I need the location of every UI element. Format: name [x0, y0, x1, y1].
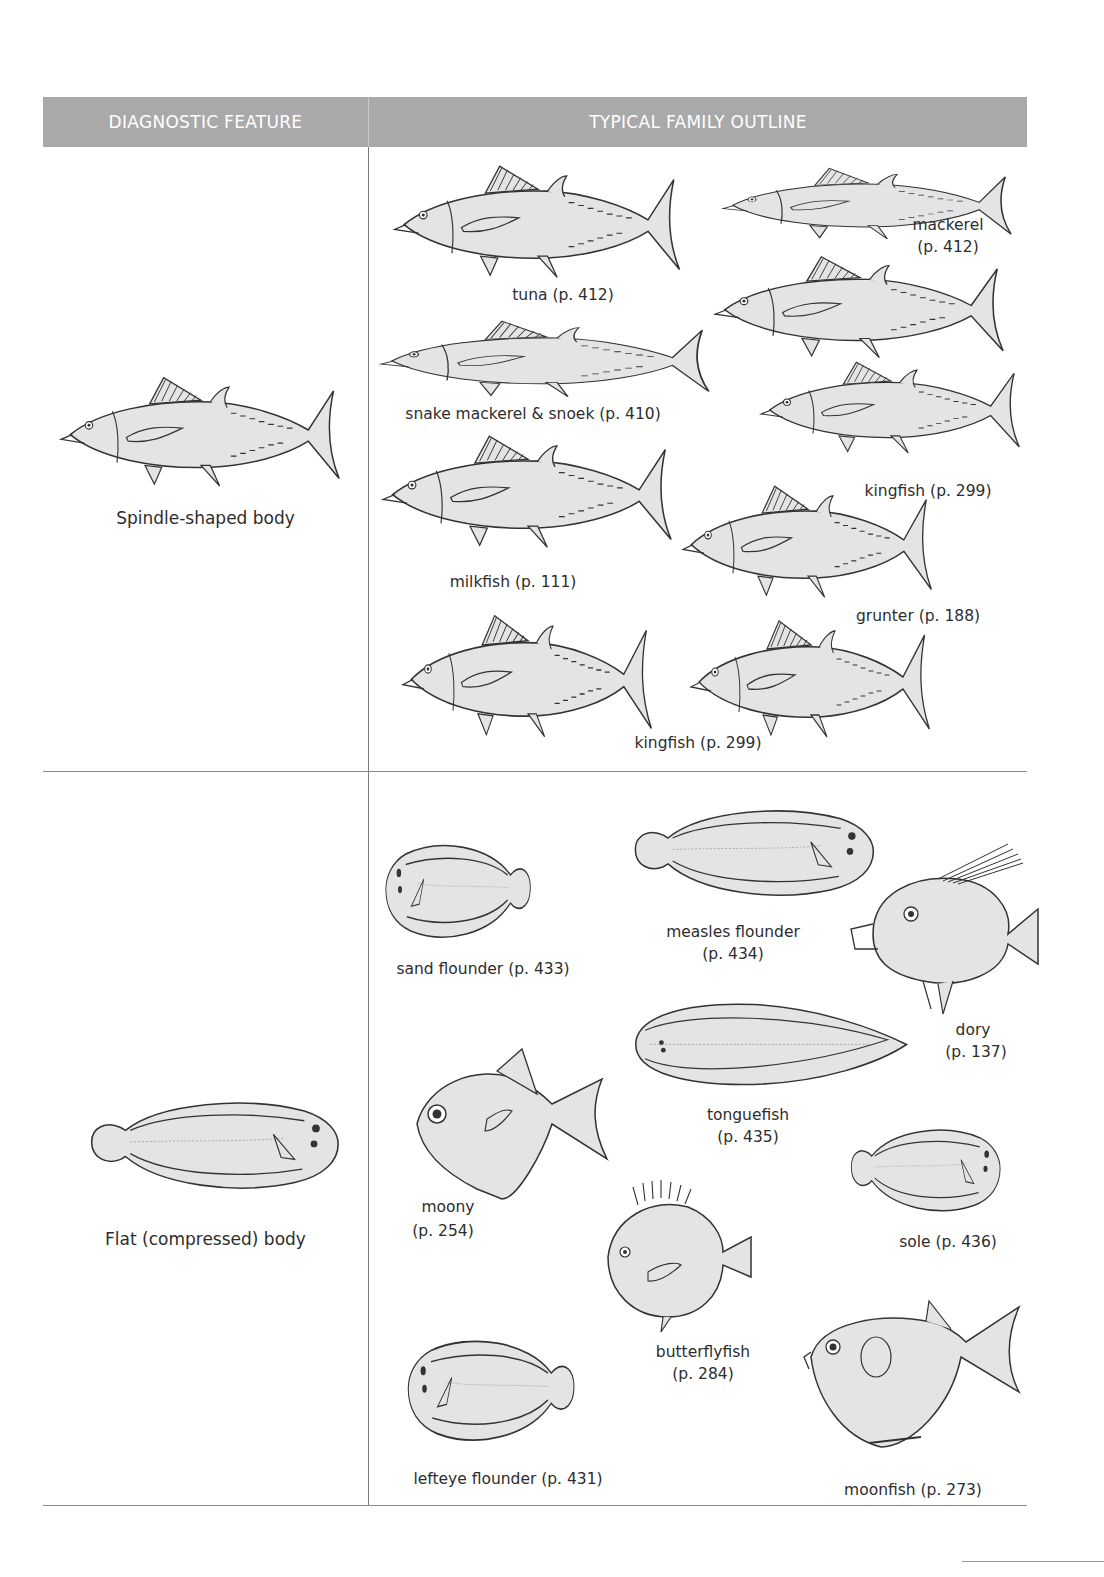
kingfish-illustration	[761, 367, 1021, 457]
family-label-measles-flounder: measles flounder	[643, 922, 823, 943]
moonfish-illustration	[801, 1297, 1026, 1457]
family-label-sole: sole (p. 436)	[883, 1232, 1013, 1253]
kingfish-illustration-2a	[403, 622, 653, 742]
butterflyfish-illustration	[603, 1177, 753, 1332]
sole-illustration	[828, 1112, 1003, 1222]
family-page-butterflyfish: (p. 284)	[643, 1364, 763, 1385]
family-label-kingfish-2: kingfish (p. 299)	[613, 733, 783, 754]
family-page-mackerel: (p. 412)	[893, 237, 1003, 258]
family-label-mackerel: mackerel	[893, 215, 1003, 236]
family-page-moony: (p. 254)	[398, 1221, 488, 1242]
family-page-tonguefish: (p. 435)	[673, 1127, 823, 1148]
family-label-dory: dory	[943, 1020, 1003, 1041]
family-label-tuna: tuna (p. 412)	[473, 285, 653, 306]
table-bottom-rule	[43, 1505, 1027, 1506]
milkfish-illustration	[383, 442, 673, 552]
header-typical-family-outline: TYPICAL FAMILY OUTLINE	[368, 97, 1027, 147]
flat-body-example-illustration	[53, 1082, 343, 1202]
feature-label-flat: Flat (compressed) body	[43, 1229, 368, 1250]
sand-flounder-illustration	[383, 825, 553, 950]
family-label-butterflyfish: butterflyfish	[643, 1342, 763, 1363]
header-diagnostic-feature: DIAGNOSTIC FEATURE	[43, 97, 368, 147]
family-label-tonguefish: tonguefish	[673, 1105, 823, 1126]
column-divider	[368, 147, 369, 1505]
family-label-grunter: grunter (p. 188)	[833, 606, 1003, 627]
measles-flounder-illustration	[598, 792, 878, 907]
moony-illustration	[407, 1049, 612, 1209]
lefteye-flounder-illustration	[405, 1319, 600, 1454]
kingfish-illustration-2b	[691, 627, 931, 742]
snake-mackerel-illustration	[381, 325, 711, 400]
family-label-milkfish: milkfish (p. 111)	[413, 572, 613, 593]
tuna-illustration	[388, 172, 688, 282]
feature-label-spindle: Spindle-shaped body	[43, 508, 368, 529]
row-divider	[43, 771, 1027, 772]
family-label-moonfish: moonfish (p. 273)	[823, 1480, 1003, 1501]
mackerel-illustration-2	[715, 262, 1005, 362]
family-page-measles-flounder: (p. 434)	[643, 944, 823, 965]
page-footer-rule	[962, 1561, 1104, 1562]
family-label-snake-mackerel: snake mackerel & snoek (p. 410)	[373, 404, 693, 425]
dory-illustration	[843, 849, 1043, 1009]
spindle-body-example-illustration	[61, 382, 341, 492]
family-label-lefteye-flounder: lefteye flounder (p. 431)	[388, 1469, 628, 1490]
grunter-illustration	[683, 492, 933, 602]
table-header: DIAGNOSTIC FEATURE TYPICAL FAMILY OUTLIN…	[43, 97, 1027, 147]
tonguefish-illustration	[626, 997, 921, 1092]
family-label-moony: moony	[403, 1197, 493, 1218]
family-page-dory: (p. 137)	[931, 1042, 1021, 1063]
family-label-sand-flounder: sand flounder (p. 433)	[378, 959, 588, 980]
